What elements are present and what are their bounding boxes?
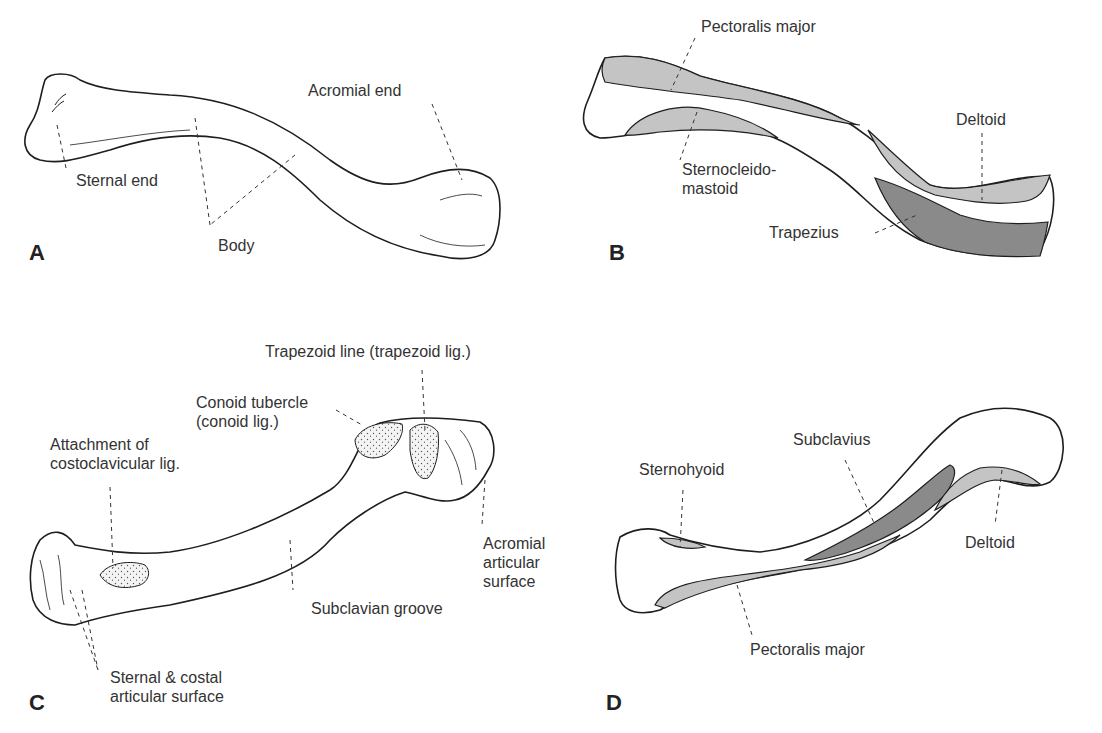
clavicle-illustrations bbox=[0, 0, 1102, 733]
panel-d-letter: D bbox=[606, 690, 622, 716]
panel-a-letter: A bbox=[29, 240, 45, 266]
label-subclavius: Subclavius bbox=[793, 430, 870, 449]
panel-b-letter: B bbox=[609, 240, 625, 266]
label-trapezius: Trapezius bbox=[769, 223, 839, 242]
label-sternocleidomastoid: Sternocleido- mastoid bbox=[682, 160, 776, 198]
label-body: Body bbox=[218, 236, 254, 255]
label-conoid-tubercle: Conoid tubercle (conoid lig.) bbox=[196, 393, 308, 431]
panel-a-bone bbox=[25, 74, 500, 259]
label-deltoid-b: Deltoid bbox=[956, 110, 1006, 129]
label-acromial-end: Acromial end bbox=[308, 81, 401, 100]
label-subclavian-groove: Subclavian groove bbox=[311, 599, 443, 618]
label-pectoralis-major-b: Pectoralis major bbox=[701, 17, 816, 36]
label-sternal-end: Sternal end bbox=[76, 171, 158, 190]
label-deltoid-d: Deltoid bbox=[965, 533, 1015, 552]
label-costoclavicular-attachment: Attachment of costoclavicular lig. bbox=[50, 435, 180, 473]
label-pectoralis-major-d: Pectoralis major bbox=[750, 640, 865, 659]
panel-c-letter: C bbox=[29, 690, 45, 716]
label-trapezoid-line: Trapezoid line (trapezoid lig.) bbox=[265, 342, 471, 361]
label-sternal-costal-articular-surface: Sternal & costal articular surface bbox=[110, 668, 224, 706]
label-sternohyoid: Sternohyoid bbox=[639, 460, 724, 479]
label-acromial-articular-surface: Acromial articular surface bbox=[483, 534, 545, 591]
